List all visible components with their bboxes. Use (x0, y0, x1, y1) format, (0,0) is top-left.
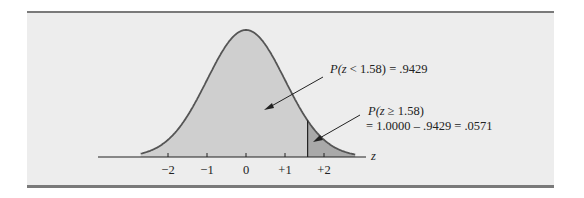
annotation-text: P( (367, 104, 381, 118)
annotation-text: < 1.58) = .9429 (347, 62, 428, 76)
tick-label: +1 (278, 163, 291, 177)
arrow-upper-tail (318, 115, 360, 139)
annotation-left-probability: P(z < 1.58) = .9429 (329, 62, 427, 76)
annotation-text: ≥ 1.58) (385, 104, 424, 118)
tick-label: 0 (243, 163, 249, 177)
normal-distribution-chart: −2−10+1+2 z P(z < 1.58) = .9429 P(z ≥ 1.… (0, 0, 584, 198)
annotation-text: P( (329, 62, 343, 76)
tick-label: +2 (317, 163, 330, 177)
axis-label-z: z (370, 149, 376, 163)
upper-tail-fill (308, 121, 356, 158)
annotation-tail-probability-line2: = 1.0000 – .9429 = .0571 (366, 119, 493, 133)
tick-label: −2 (161, 163, 174, 177)
annotation-tail-probability-line1: P(z ≥ 1.58) (367, 104, 424, 118)
tick-label: −1 (200, 163, 213, 177)
